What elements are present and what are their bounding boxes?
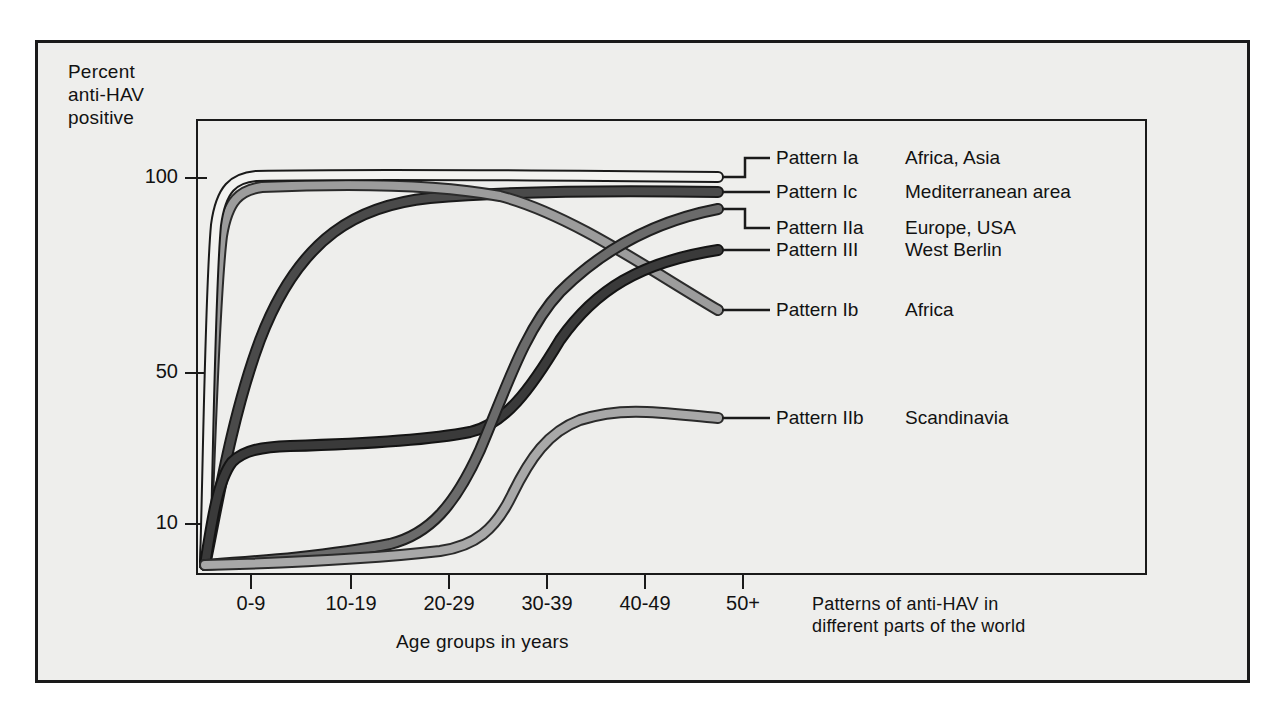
y-tick-mark-10: [185, 523, 207, 525]
caption-line-2: different parts of the world: [812, 616, 1025, 636]
x-tick-mark-3: [546, 575, 548, 589]
x-tick-mark-1: [350, 575, 352, 589]
legend-region-iii: West Berlin: [905, 239, 1002, 261]
x-tick-mark-5: [742, 575, 744, 589]
chart-figure: Percent anti-HAV positive 100 50 10 0-9 …: [0, 0, 1280, 718]
legend-region-iib: Scandinavia: [905, 407, 1009, 429]
legend-pattern-iia: Pattern IIa: [776, 217, 864, 239]
x-tick-mark-4: [644, 575, 646, 589]
y-tick-label-10: 10: [118, 511, 178, 534]
x-tick-label-3: 30-39: [502, 592, 592, 615]
caption-line-1: Patterns of anti-HAV in: [812, 594, 998, 614]
y-tick-mark-100: [185, 177, 207, 179]
x-tick-mark-2: [448, 575, 450, 589]
x-tick-label-0: 0-9: [206, 592, 296, 615]
legend-pattern-ib: Pattern Ib: [776, 299, 858, 321]
legend-pattern-iii: Pattern III: [776, 239, 858, 261]
x-axis-title: Age groups in years: [396, 630, 569, 653]
x-tick-label-4: 40-49: [600, 592, 690, 615]
x-tick-mark-0: [250, 575, 252, 589]
y-axis-title: Percent anti-HAV positive: [68, 60, 144, 129]
y-tick-mark-50: [185, 372, 207, 374]
figure-caption: Patterns of anti-HAV indifferent parts o…: [812, 593, 1025, 637]
y-tick-label-50: 50: [118, 360, 178, 383]
legend-region-ib: Africa: [905, 299, 954, 321]
legend-region-ia: Africa, Asia: [905, 147, 1000, 169]
y-tick-label-100: 100: [118, 165, 178, 188]
x-tick-label-5: 50+: [698, 592, 788, 615]
legend-pattern-iib: Pattern IIb: [776, 407, 864, 429]
x-tick-label-1: 10-19: [306, 592, 396, 615]
legend-region-iia: Europe, USA: [905, 217, 1016, 239]
legend-pattern-ic: Pattern Ic: [776, 181, 857, 203]
legend-region-ic: Mediterranean area: [905, 181, 1071, 203]
legend-pattern-ia: Pattern Ia: [776, 147, 858, 169]
x-tick-label-2: 20-29: [404, 592, 494, 615]
